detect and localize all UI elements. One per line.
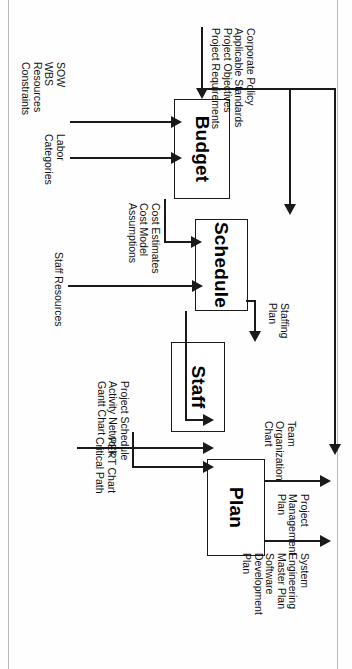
arrowhead-sow-to-budget: [171, 116, 182, 128]
connector-schedule-to-staff-run: [254, 300, 256, 331]
process-box-schedule[interactable]: Schedule: [195, 219, 248, 311]
arrowhead-staff-to-plan: [203, 461, 214, 473]
arrowhead-schedule-to-staff: [249, 331, 261, 342]
connector-staff-resources-to-schedule: [68, 285, 195, 287]
arrowhead-budget-to-schedule: [191, 236, 202, 248]
arrowhead-policy-to-schedule: [284, 204, 296, 215]
label-pert-chart-flow: PERT Chart Critical Path: [94, 437, 117, 494]
connector-budget-to-schedule-run: [164, 199, 166, 243]
scanned-page: Budget Schedule Staff Plan: [0, 0, 352, 669]
connector-sow-to-budget: [70, 121, 174, 123]
label-semp-output: System Engineering Master Plan Software …: [240, 553, 310, 615]
process-box-plan[interactable]: Plan: [207, 459, 265, 556]
connector-staff-to-plan-riser: [133, 466, 206, 468]
label-cost-estimates-flow: Cost Estimates Cost Model Assumptions: [126, 203, 161, 274]
process-box-staff-label: Staff: [187, 365, 209, 408]
arrowhead-policy-to-plan: [329, 444, 341, 455]
label-staffing-plan-flow: Staffing Plan: [267, 303, 290, 338]
connector-labor-to-budget: [70, 157, 174, 159]
connector-policy-riser-upper: [290, 88, 336, 90]
connector-budget-to-schedule-riser: [165, 241, 194, 243]
arrowhead-policy-to-budget: [196, 88, 208, 99]
arrowhead-pert-to-plan: [203, 442, 214, 454]
arrowhead-plan-to-pmp: [320, 475, 331, 487]
label-team-org-chart-flow: Team Organization Chart: [262, 421, 297, 481]
label-policy-inputs: Corporate Policy Applicable Standards Pr…: [210, 28, 256, 129]
arrowhead-plan-to-semp: [320, 535, 331, 547]
process-box-schedule-label: Schedule: [211, 222, 233, 308]
process-box-plan-label: Plan: [225, 487, 247, 528]
label-sow-inputs: SOW WBS Resources Constraints: [20, 62, 66, 115]
connector-policy-to-schedule-run: [289, 88, 291, 204]
connector-policy-to-budget: [201, 27, 203, 88]
label-pmp-output: Project Management Plan: [275, 494, 310, 555]
diagram-rotation-wrapper: Budget Schedule Staff Plan: [0, 0, 352, 669]
connector-schedule-to-plan-run: [185, 311, 187, 421]
arrowhead-labor-to-budget: [171, 152, 182, 164]
connector-policy-to-plan-run: [334, 88, 336, 444]
label-labor-inputs: Labor Categories: [43, 134, 66, 185]
connector-staff-to-plan-run: [132, 432, 134, 468]
diagram-canvas: Budget Schedule Staff Plan: [0, 0, 352, 669]
label-staff-resources-input: Staff Resources: [52, 252, 64, 327]
arrowhead-schedule-to-plan: [203, 414, 214, 426]
arrowhead-staff-resources-to-schedule: [192, 280, 203, 292]
